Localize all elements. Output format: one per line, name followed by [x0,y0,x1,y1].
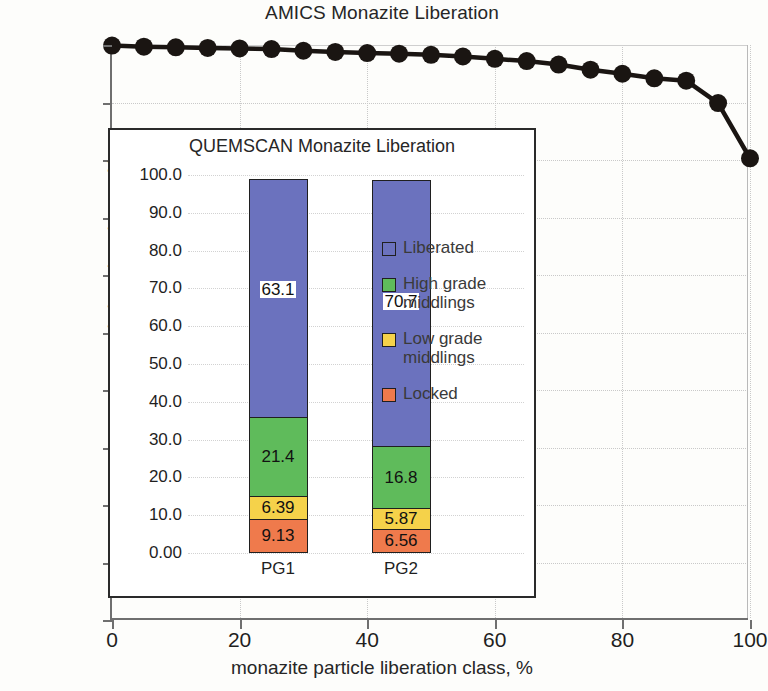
data-point-marker [167,38,185,56]
x-axis-tick-label: 60 [483,628,506,652]
inset-y-tick-label: 10.0 [110,505,182,525]
inset-legend: LiberatedHigh grade middlingsLow grade m… [382,238,532,420]
bar-segment: 9.13 [249,519,308,554]
x-axis-tick-mark [622,620,624,629]
legend-item: Low grade middlings [382,329,532,367]
data-point-marker [135,38,153,56]
inset-category-label: PG2 [384,559,418,579]
bar-segment-value: 63.1 [260,281,295,298]
data-point-marker [422,46,440,64]
x-axis-tick-mark [495,620,497,629]
y-axis-tick-mark [103,620,112,622]
bar-segment-value: 6.39 [260,499,295,516]
data-point-marker [709,94,727,112]
inset-y-tick-label: 0.00 [110,543,182,563]
gridline-vertical [750,45,751,618]
inset-y-tick-label: 100.0 [110,165,182,185]
inset-y-tick-label: 30.0 [110,430,182,450]
data-point-marker [645,69,663,87]
bar-segment-value: 9.13 [260,527,295,544]
main-x-axis-label: monazite particle liberation class, % [0,657,764,679]
inset-y-tick-label: 90.0 [110,203,182,223]
inset-gridline [188,515,524,516]
data-point-marker [390,45,408,63]
legend-item: Locked [382,384,532,403]
inset-gridline [188,440,524,441]
inset-category-label: PG1 [261,559,295,579]
inset-y-tick-label: 70.0 [110,278,182,298]
data-point-marker [518,52,536,70]
data-point-marker [231,39,249,57]
bar-segment-value: 21.4 [260,448,295,465]
legend-item: Liberated [382,238,532,257]
x-axis-tick-label: 40 [356,628,379,652]
bar-segment: 63.1 [249,179,308,418]
main-chart-title: AMICS Monazite Liberation [0,2,764,24]
x-axis-tick-mark [112,620,114,629]
bar-segment: 21.4 [249,416,308,497]
legend-swatch [382,388,396,402]
x-axis-tick-mark [750,620,752,629]
legend-label: Low grade middlings [403,329,532,367]
legend-label: Locked [403,384,458,403]
inset-y-tick-label: 20.0 [110,467,182,487]
x-axis-tick-label: 80 [611,628,634,652]
inset-y-tick-label: 80.0 [110,241,182,261]
bar-segment: 16.8 [372,446,431,510]
y-axis-tick-mark [103,45,112,47]
data-point-marker [263,40,281,58]
bar-segment-value: 6.56 [383,532,418,549]
data-point-marker [326,43,344,61]
data-point-marker [486,50,504,68]
legend-swatch [382,242,396,256]
data-point-marker [550,56,568,74]
data-point-marker [199,39,217,57]
data-point-marker [677,72,695,90]
x-axis-tick-label: 20 [228,628,251,652]
legend-swatch [382,278,396,292]
legend-swatch [382,333,396,347]
inset-gridline [188,213,524,214]
x-axis-tick-mark [367,620,369,629]
x-axis-tick-label: 0 [106,628,118,652]
data-point-marker [358,44,376,62]
bar-segment-value: 5.87 [383,510,418,527]
inset-y-tick-label: 50.0 [110,354,182,374]
bar-segment: 5.87 [372,508,431,530]
inset-gridline [188,553,524,554]
y-axis-tick-mark [103,103,112,105]
inset-gridline [188,175,524,176]
data-point-marker [741,149,759,167]
bar-segment: 6.39 [249,496,308,520]
data-point-marker [454,48,472,66]
legend-item: High grade middlings [382,274,532,312]
inset-chart: QUEMSCAN Monazite Liberation 0.0010.020.… [108,128,536,598]
legend-label: Liberated [403,238,474,257]
data-point-marker [582,61,600,79]
data-point-marker [613,65,631,83]
inset-y-tick-label: 40.0 [110,392,182,412]
bar-segment-value: 16.8 [383,469,418,486]
x-axis-tick-label: 100 [732,628,767,652]
inset-gridline [188,477,524,478]
bar-segment: 6.56 [372,528,431,553]
legend-label: High grade middlings [403,274,532,312]
data-point-marker [294,42,312,60]
stacked-bar: 9.136.3921.463.1 [249,175,308,553]
inset-chart-title: QUEMSCAN Monazite Liberation [110,136,534,157]
inset-y-tick-label: 60.0 [110,316,182,336]
x-axis-tick-mark [240,620,242,629]
